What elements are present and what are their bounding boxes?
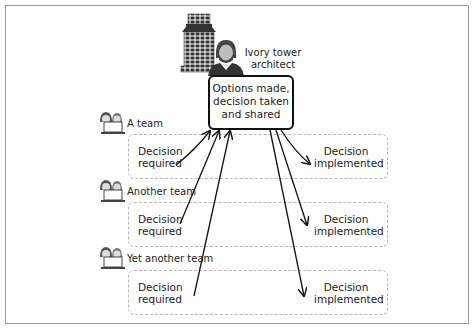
illustration-layer (0, 0, 473, 330)
architect-label-line1: Ivory tower (243, 47, 303, 59)
team-icon-another (100, 180, 125, 202)
implemented-line2: implemented (314, 293, 378, 305)
implemented-line1: Decision (314, 145, 378, 157)
architect-label: Ivory tower architect (243, 47, 303, 71)
decision-required-yet-another: Decision required (138, 281, 182, 305)
decision-required-another: Decision required (138, 213, 182, 237)
required-line2: required (138, 293, 182, 305)
implemented-line1: Decision (314, 281, 378, 293)
decision-required-a: Decision required (138, 145, 182, 169)
required-line1: Decision (138, 145, 182, 157)
required-line2: required (138, 157, 182, 169)
ivory-tower-icon (181, 14, 216, 72)
arrows-implemented (270, 130, 310, 296)
decision-implemented-yet-another: Decision implemented (314, 281, 378, 305)
arrows-required (176, 131, 230, 296)
arrow-implemented-yet-another (270, 130, 304, 296)
team-name-yet-another: Yet another team (127, 253, 213, 265)
central-line1: Options made, (210, 82, 292, 95)
central-line3: and shared (210, 108, 292, 121)
architect-label-line2: architect (243, 59, 303, 71)
arrow-required-yet-another (194, 131, 230, 296)
decision-implemented-a: Decision implemented (314, 145, 378, 169)
required-line1: Decision (138, 213, 182, 225)
team-name-a: A team (127, 118, 163, 130)
team-name-another: Another team (127, 186, 196, 198)
central-line2: decision taken (210, 95, 292, 108)
required-line2: required (138, 225, 182, 237)
required-line1: Decision (138, 281, 182, 293)
team-icon-a (100, 112, 125, 134)
implemented-line1: Decision (314, 213, 378, 225)
implemented-line2: implemented (314, 225, 378, 237)
team-icon-yet-another (100, 247, 125, 269)
implemented-line2: implemented (314, 157, 378, 169)
decision-implemented-another: Decision implemented (314, 213, 378, 237)
central-decision-box: Options made, decision taken and shared (208, 75, 294, 130)
